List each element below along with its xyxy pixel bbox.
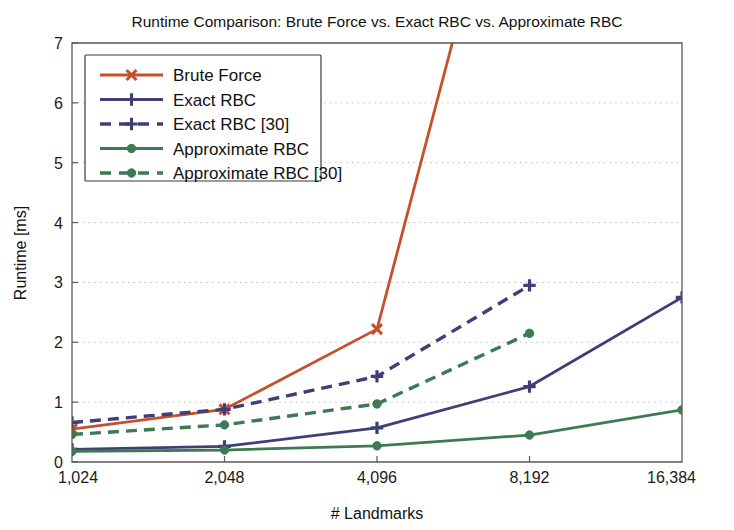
series-approximate-rbc-30 — [68, 329, 534, 439]
data-point-marker — [220, 446, 228, 454]
y-axis-title: Runtime [ms] — [12, 206, 29, 300]
x-tick-label: 2,048 — [204, 469, 244, 486]
legend-label: Exact RBC [30] — [173, 115, 289, 134]
data-point-marker — [373, 442, 381, 450]
data-point-marker — [525, 431, 533, 439]
x-axis-ticks: 1,0242,0484,0968,19216,384 — [58, 456, 696, 486]
x-tick-label: 16,384 — [647, 469, 696, 486]
y-tick-label: 7 — [54, 35, 63, 52]
y-tick-label: 6 — [54, 95, 63, 112]
y-tick-label: 3 — [54, 274, 63, 291]
y-tick-label: 5 — [54, 155, 63, 172]
legend-label: Approximate RBC [30] — [173, 164, 342, 183]
series-line — [72, 285, 530, 422]
y-tick-label: 1 — [54, 394, 63, 411]
legend-label: Brute Force — [173, 66, 262, 85]
x-tick-label: 4,096 — [357, 469, 397, 486]
data-point-marker — [525, 329, 533, 337]
data-point-marker — [373, 400, 381, 408]
y-axis-ticks: 01234567 — [54, 35, 78, 471]
legend-label: Approximate RBC — [173, 140, 309, 159]
chart-legend: Brute ForceExact RBCExact RBC [30]Approx… — [85, 55, 342, 183]
chart-title: Runtime Comparison: Brute Force vs. Exac… — [132, 13, 623, 30]
data-point-marker — [127, 169, 135, 177]
data-point-marker — [127, 144, 135, 152]
x-tick-label: 1,024 — [58, 469, 98, 486]
y-tick-label: 4 — [54, 215, 63, 232]
series-exact-rbc-30 — [66, 279, 536, 428]
data-point-marker — [523, 279, 535, 291]
data-point-marker — [523, 380, 535, 392]
y-tick-label: 2 — [54, 334, 63, 351]
x-tick-label: 8,192 — [509, 469, 549, 486]
data-point-marker — [220, 421, 228, 429]
runtime-comparison-chart: Runtime Comparison: Brute Force vs. Exac… — [0, 0, 734, 530]
legend-label: Exact RBC — [173, 91, 256, 110]
x-axis-title: # Landmarks — [331, 505, 424, 522]
data-point-marker — [371, 422, 383, 434]
